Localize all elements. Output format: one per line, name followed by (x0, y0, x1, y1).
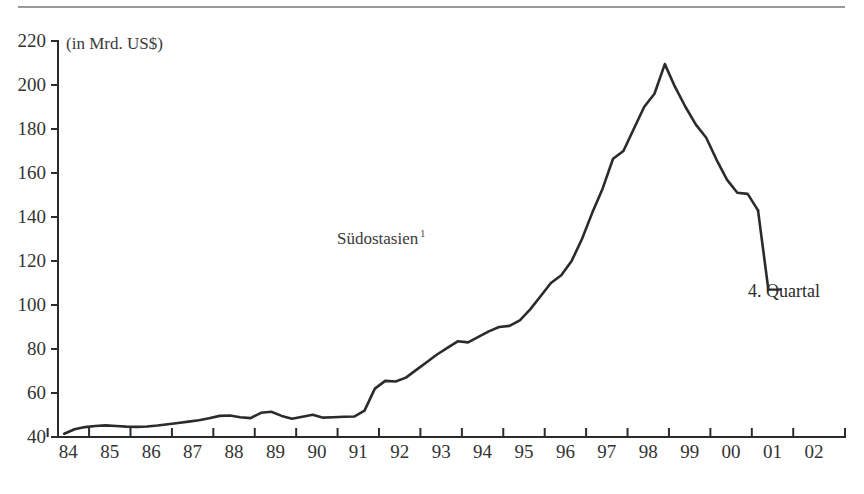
svg-text:160: 160 (18, 162, 47, 183)
svg-text:220: 220 (18, 30, 47, 51)
svg-text:40: 40 (27, 426, 46, 447)
series-footnote-marker: 1 (420, 228, 425, 239)
svg-text:97: 97 (597, 441, 616, 462)
svg-text:99: 99 (680, 441, 699, 462)
svg-text:200: 200 (18, 74, 47, 95)
y-axis-unit-note: (in Mrd. US$) (66, 34, 163, 54)
chart-figure: 2202001801601401201008060408485868788899… (0, 0, 864, 494)
svg-text:00: 00 (722, 441, 741, 462)
svg-text:91: 91 (349, 441, 368, 462)
svg-text:98: 98 (639, 441, 658, 462)
series-annotation-text: Südostasien (337, 229, 418, 248)
svg-text:95: 95 (514, 441, 533, 462)
chart-axes (48, 41, 845, 437)
svg-text:89: 89 (266, 441, 285, 462)
svg-text:80: 80 (27, 338, 46, 359)
svg-text:87: 87 (183, 441, 202, 462)
svg-text:60: 60 (27, 382, 46, 403)
chart-series (64, 64, 758, 434)
svg-text:94: 94 (473, 441, 493, 462)
endpoint-leader-line (758, 210, 780, 289)
line-chart-plot: 2202001801601401201008060408485868788899… (0, 0, 864, 494)
svg-text:90: 90 (307, 441, 326, 462)
svg-text:85: 85 (100, 441, 119, 462)
svg-text:88: 88 (225, 441, 244, 462)
svg-text:96: 96 (556, 441, 575, 462)
svg-text:93: 93 (432, 441, 451, 462)
svg-text:01: 01 (763, 441, 782, 462)
svg-text:86: 86 (142, 441, 161, 462)
svg-text:120: 120 (18, 250, 47, 271)
svg-text:180: 180 (18, 118, 47, 139)
series-annotation-label: Südostasien1 (337, 228, 425, 249)
svg-text:92: 92 (390, 441, 409, 462)
svg-text:140: 140 (18, 206, 47, 227)
endpoint-annotation-label: 4. Quartal (748, 281, 820, 302)
svg-text:100: 100 (18, 294, 47, 315)
svg-text:02: 02 (804, 441, 823, 462)
svg-text:84: 84 (59, 441, 79, 462)
